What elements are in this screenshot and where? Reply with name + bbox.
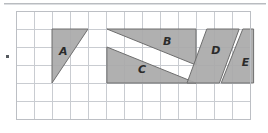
shape-label-d: D [211,44,220,57]
shape-label-a: A [58,45,68,58]
shape-label-e: E [242,56,250,69]
shape-label-c: C [138,63,146,76]
shape-label-b: B [163,35,171,48]
grid-figure-svg: ABCDE [0,0,268,133]
figure-root: ABCDE [0,0,268,133]
shaded-shapes [52,29,254,83]
